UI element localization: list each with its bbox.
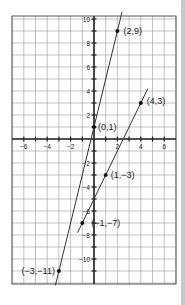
- y-tick-label: 10: [83, 16, 91, 23]
- data-point: [104, 173, 108, 177]
- line-series-1: [55, 12, 122, 286]
- data-point: [57, 269, 61, 273]
- axes: [12, 16, 176, 284]
- y-tick-label: 8: [86, 40, 90, 47]
- y-tick-label: −2: [83, 160, 91, 167]
- coordinate-graph: −6−4−2246108642−2−4−6−8−10 (2,9)(0,1)(−3…: [0, 0, 185, 305]
- y-tick-label: −8: [83, 232, 91, 239]
- x-tick-label: 2: [116, 143, 120, 150]
- x-tick-label: −4: [43, 143, 51, 150]
- point-label: (4,3): [147, 96, 166, 106]
- point-label: (0,1): [98, 122, 117, 132]
- y-tick-label: 6: [86, 64, 90, 71]
- x-tick-label: 6: [162, 143, 166, 150]
- page-edge-strip: [181, 0, 185, 305]
- x-tick-label: 4: [139, 143, 143, 150]
- y-tick-label: 4: [86, 88, 90, 95]
- x-tick-label: −2: [67, 143, 75, 150]
- point-label: (2,9): [123, 26, 142, 36]
- point-label: (−1,−7): [91, 218, 120, 228]
- y-tick-label: −4: [83, 184, 91, 191]
- data-point: [139, 101, 143, 105]
- data-point: [80, 221, 84, 225]
- point-label: (1,−3): [111, 170, 135, 180]
- point-label: (−3,−11): [22, 266, 55, 276]
- y-tick-label: 2: [86, 112, 90, 119]
- data-point: [115, 29, 119, 33]
- x-tick-label: −6: [20, 143, 28, 150]
- y-tick-label: −10: [79, 256, 90, 263]
- data-point: [92, 125, 96, 129]
